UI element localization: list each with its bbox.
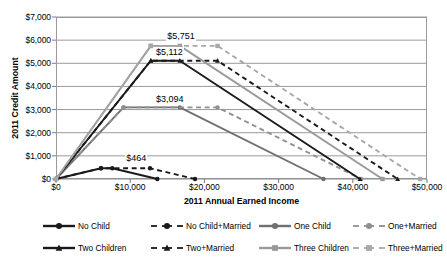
data-label: $5,751 — [166, 31, 196, 41]
legend-label: No Child+Married — [186, 221, 251, 231]
data-point-marker — [215, 44, 219, 48]
legend-label: Three+Married — [388, 243, 443, 253]
legend-swatch-icon — [150, 242, 184, 254]
legend-swatch-icon — [42, 220, 76, 232]
data-label: $5,112 — [155, 47, 184, 57]
data-point-marker — [155, 177, 159, 181]
legend-label: No Child — [78, 221, 110, 231]
legend-swatch-icon — [42, 242, 76, 254]
data-point-marker — [418, 177, 422, 181]
legend-swatch-icon — [150, 220, 184, 232]
data-point-marker — [121, 105, 125, 109]
data-point-marker — [193, 177, 197, 181]
data-point-marker — [380, 177, 384, 181]
legend-label: One Child — [294, 221, 331, 231]
legend-label: Two Children — [78, 243, 126, 253]
data-point-marker — [148, 166, 152, 170]
series-no-child-married — [54, 166, 197, 181]
chart-legend: No ChildNo Child+MarriedOne ChildOne+Mar… — [0, 214, 439, 262]
legend-item-two-children[interactable]: Two Children — [42, 238, 126, 258]
legend-item-three-married[interactable]: Three+Married — [352, 238, 443, 258]
legend-label: Two+Married — [186, 243, 234, 253]
legend-label: One+Married — [388, 221, 437, 231]
data-point-marker — [99, 166, 103, 170]
legend-item-no-child-married[interactable]: No Child+Married — [150, 216, 251, 236]
legend-label: Three Children — [294, 243, 349, 253]
legend-item-two-married[interactable]: Two+Married — [150, 238, 234, 258]
data-point-marker — [272, 223, 278, 229]
series-two-children — [54, 58, 363, 181]
data-label: $464 — [125, 153, 147, 163]
data-point-marker — [366, 223, 372, 229]
legend-item-one-married[interactable]: One+Married — [352, 216, 437, 236]
data-point-marker — [272, 245, 278, 251]
data-label: $3,094 — [155, 94, 185, 104]
legend-swatch-icon — [258, 242, 292, 254]
data-point-marker — [149, 44, 153, 48]
data-point-marker — [321, 177, 325, 181]
legend-item-no-child[interactable]: No Child — [42, 216, 110, 236]
data-point-marker — [56, 223, 62, 229]
data-point-marker — [54, 177, 58, 181]
legend-swatch-icon — [258, 220, 292, 232]
data-point-marker — [215, 105, 219, 109]
data-point-marker — [164, 223, 170, 229]
legend-swatch-icon — [352, 242, 386, 254]
data-point-marker — [366, 245, 372, 251]
legend-item-three-children[interactable]: Three Children — [258, 238, 349, 258]
legend-item-one-child[interactable]: One Child — [258, 216, 331, 236]
legend-swatch-icon — [352, 220, 386, 232]
